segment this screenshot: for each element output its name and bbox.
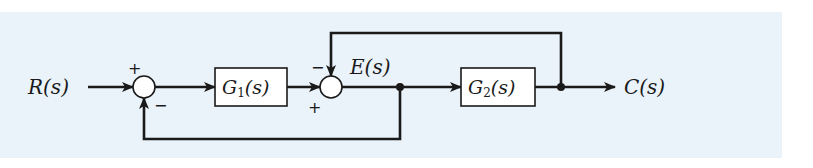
sum2-top-sign: − <box>311 58 324 77</box>
sum1-top-sign: + <box>128 59 141 78</box>
block-g1: G1(s) <box>215 68 287 106</box>
sum2-bottom-sign: + <box>308 98 321 117</box>
svg-text:G2(s): G2(s) <box>468 76 515 100</box>
block-diagram: R(s) + − G1(s) − <box>0 0 813 168</box>
sum1-bottom-sign: − <box>154 96 167 115</box>
svg-text:G1(s): G1(s) <box>222 76 269 100</box>
input-label: R(s) <box>27 75 69 99</box>
block-g2: G2(s) <box>461 68 535 106</box>
output-label: C(s) <box>624 75 665 99</box>
diagram-canvas: R(s) + − G1(s) − <box>0 0 813 168</box>
error-signal-label: E(s) <box>349 55 390 79</box>
